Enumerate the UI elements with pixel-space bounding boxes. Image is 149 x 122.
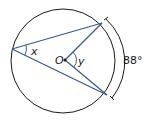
angle-x-arc: [25, 45, 26, 55]
angle-y-arc: [73, 52, 76, 67]
label-arc-88: 88°: [123, 54, 143, 67]
label-o: O: [55, 54, 64, 67]
label-y: y: [77, 55, 85, 68]
center-point: [63, 58, 66, 61]
label-x: x: [30, 45, 38, 58]
circle-diagram: x O y 88°: [0, 0, 149, 122]
